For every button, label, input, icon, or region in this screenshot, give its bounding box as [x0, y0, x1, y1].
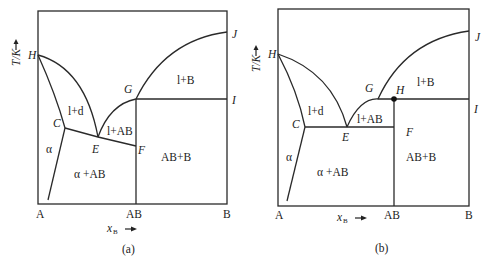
label-E: E — [91, 143, 99, 155]
liquidus-GJ — [136, 32, 227, 99]
label-H: H — [27, 49, 37, 61]
label-F: F — [137, 144, 146, 156]
region-alpha-AB: α +AB — [317, 166, 349, 178]
caption-b: (b) — [375, 242, 389, 255]
x-tick-B: B — [223, 208, 231, 220]
region-alpha: α — [46, 143, 52, 155]
label-H2: H — [395, 84, 405, 96]
svg-text:B: B — [113, 228, 118, 236]
region-l-B: l+B — [177, 74, 195, 86]
x-tick-AB: AB — [384, 209, 400, 221]
svg-text:T/K: T/K — [250, 53, 262, 72]
label-J: J — [232, 28, 238, 40]
label-G: G — [124, 83, 133, 95]
x-tick-B: B — [465, 209, 473, 221]
region-l-AB: l+AB — [107, 125, 133, 137]
solvus-line — [48, 128, 65, 200]
label-J: J — [475, 31, 481, 43]
peritectic-point-H — [391, 96, 397, 102]
region-alpha-AB: α +AB — [74, 168, 106, 180]
liquidus-HE — [38, 55, 98, 137]
svg-text:x: x — [336, 211, 343, 223]
diagram-a: H C E F G I J l+d l+AB l+B α α +AB AB+B … — [10, 11, 238, 256]
solvus-line — [287, 127, 305, 201]
y-axis-label-a: T/K — [10, 39, 22, 66]
label-I: I — [473, 103, 479, 115]
label-C: C — [292, 118, 300, 130]
label-G: G — [365, 82, 374, 94]
x-tick-A: A — [275, 209, 284, 221]
label-E: E — [341, 131, 349, 143]
region-l-d: l+d — [308, 105, 324, 117]
x-axis-label-b: x B — [336, 211, 367, 225]
y-axis-label-b: T/K — [250, 45, 262, 72]
region-alpha: α — [286, 151, 292, 163]
region-l-AB: l+AB — [357, 113, 383, 125]
region-AB-B: AB+B — [161, 151, 191, 163]
liquidus-GJ — [378, 31, 469, 99]
svg-text:B: B — [343, 217, 348, 225]
label-F: F — [405, 126, 414, 138]
frame-a — [38, 11, 227, 204]
x-tick-AB: AB — [126, 208, 142, 220]
x-axis-label-a: x B — [106, 222, 137, 236]
label-H: H — [267, 48, 277, 60]
region-l-B: l+B — [417, 76, 435, 88]
region-AB-B: AB+B — [406, 151, 436, 163]
caption-a: (a) — [122, 243, 135, 256]
label-I: I — [231, 94, 237, 106]
region-l-d: l+d — [68, 105, 84, 117]
label-C: C — [53, 117, 61, 129]
svg-text:x: x — [106, 222, 113, 234]
svg-text:T/K: T/K — [10, 47, 22, 66]
diagram-b: H C E F G H I J l+d l+AB l+B α α +AB AB+… — [250, 9, 481, 255]
phase-diagrams: H C E F G I J l+d l+AB l+B α α +AB AB+B … — [0, 0, 491, 266]
x-tick-A: A — [36, 208, 45, 220]
